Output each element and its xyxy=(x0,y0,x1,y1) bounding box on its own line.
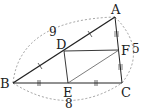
segment-ef xyxy=(68,50,119,83)
measure-ac: 5 xyxy=(132,42,140,56)
label-f: F xyxy=(121,43,130,58)
measure-bc: 8 xyxy=(65,97,73,110)
label-a: A xyxy=(110,2,121,17)
triangle-diagram: A B C D E F 9 5 8 xyxy=(0,0,141,110)
segment-de xyxy=(64,51,68,83)
label-c: C xyxy=(121,85,131,100)
measure-ab: 9 xyxy=(49,25,57,39)
label-b: B xyxy=(0,76,10,91)
segment-df xyxy=(64,50,119,51)
label-d: D xyxy=(56,37,66,52)
